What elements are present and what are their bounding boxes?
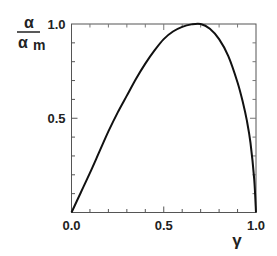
y-tick-labels: 0.51.0 — [47, 17, 65, 126]
plot-border — [72, 24, 257, 213]
x-tick-label: 0.5 — [155, 218, 173, 233]
y-axis-label: α α m — [17, 14, 45, 53]
y-tick-label: 1.0 — [47, 17, 65, 32]
x-axis-label: γ — [232, 231, 242, 250]
y-axis-label-numerator: α — [24, 14, 34, 31]
x-tick-label: 1.0 — [247, 218, 265, 233]
axis-ticks — [72, 24, 257, 213]
x-tick-label: 0.0 — [62, 218, 80, 233]
chart: α α m 0.00.51.0 0.51.0 γ — [0, 0, 277, 256]
y-axis-label-denominator: α — [18, 34, 28, 51]
y-tick-label: 0.5 — [47, 111, 65, 126]
plot-frame — [72, 24, 257, 213]
data-curve — [72, 24, 257, 213]
y-axis-label-subscript: m — [33, 37, 45, 53]
